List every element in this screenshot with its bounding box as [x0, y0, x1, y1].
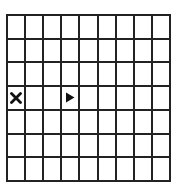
grid-cell[interactable]: [117, 87, 135, 111]
grid-cell[interactable]: [62, 111, 80, 135]
grid-cell[interactable]: [135, 135, 153, 159]
grid-cell[interactable]: [153, 158, 171, 182]
grid-cell[interactable]: [80, 135, 98, 159]
grid-cell[interactable]: [117, 158, 135, 182]
grid-cell[interactable]: [8, 63, 26, 87]
grid-cell[interactable]: [117, 40, 135, 64]
grid-cell[interactable]: [80, 40, 98, 64]
grid-cell[interactable]: [26, 63, 44, 87]
grid-cell[interactable]: [44, 16, 62, 40]
grid-cell[interactable]: [135, 111, 153, 135]
grid-cell[interactable]: [26, 40, 44, 64]
grid-cell[interactable]: [153, 40, 171, 64]
x-mark-icon: [8, 87, 24, 109]
grid-cell[interactable]: [62, 158, 80, 182]
grid-cell[interactable]: [153, 16, 171, 40]
grid-cell[interactable]: [8, 40, 26, 64]
grid-cell[interactable]: [26, 16, 44, 40]
grid-cell[interactable]: [26, 111, 44, 135]
grid-cell[interactable]: [135, 87, 153, 111]
grid-cell[interactable]: [99, 16, 117, 40]
grid-cell[interactable]: [26, 87, 44, 111]
grid-cell[interactable]: [80, 111, 98, 135]
grid-cell[interactable]: [62, 87, 80, 111]
grid-cell[interactable]: [153, 87, 171, 111]
grid-cell[interactable]: [62, 40, 80, 64]
grid-cell[interactable]: [44, 63, 62, 87]
grid-cell[interactable]: [8, 158, 26, 182]
grid-cell[interactable]: [117, 111, 135, 135]
grid-cell[interactable]: [62, 63, 80, 87]
grid-cell[interactable]: [44, 87, 62, 111]
grid-cell[interactable]: [62, 16, 80, 40]
game-grid: [6, 14, 171, 182]
grid-cell[interactable]: [153, 63, 171, 87]
grid-cell[interactable]: [99, 111, 117, 135]
grid-cell[interactable]: [117, 135, 135, 159]
grid-cell[interactable]: [26, 135, 44, 159]
grid-cell[interactable]: [135, 40, 153, 64]
grid-cell[interactable]: [99, 87, 117, 111]
grid-cell[interactable]: [8, 111, 26, 135]
grid-cell[interactable]: [153, 111, 171, 135]
grid-cell[interactable]: [99, 135, 117, 159]
grid-cell[interactable]: [44, 158, 62, 182]
grid-cell[interactable]: [62, 135, 80, 159]
grid-cell[interactable]: [8, 87, 26, 111]
grid-cell[interactable]: [135, 63, 153, 87]
grid-cell[interactable]: [153, 135, 171, 159]
grid-cell[interactable]: [99, 40, 117, 64]
grid-cell[interactable]: [117, 16, 135, 40]
grid-cell[interactable]: [44, 111, 62, 135]
grid-cell[interactable]: [80, 16, 98, 40]
grid-cell[interactable]: [80, 87, 98, 111]
triangle-right-icon: [62, 87, 78, 109]
grid-cell[interactable]: [99, 63, 117, 87]
grid-cell[interactable]: [117, 63, 135, 87]
grid-cell[interactable]: [99, 158, 117, 182]
grid-cell[interactable]: [44, 135, 62, 159]
grid-cell[interactable]: [8, 135, 26, 159]
grid-cell[interactable]: [80, 63, 98, 87]
grid-cell[interactable]: [44, 40, 62, 64]
grid-cell[interactable]: [8, 16, 26, 40]
grid-cell[interactable]: [135, 158, 153, 182]
grid-cell[interactable]: [135, 16, 153, 40]
grid-cell[interactable]: [80, 158, 98, 182]
grid-cell[interactable]: [26, 158, 44, 182]
